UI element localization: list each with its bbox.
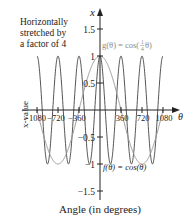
x-axis-symbol: θ — [178, 111, 183, 122]
y-tick-label: 1 — [90, 52, 95, 62]
annotation-line-3: a factor of 4 — [20, 39, 66, 49]
x-tick-label: 360 — [116, 113, 129, 123]
y-axis-symbol: x — [89, 6, 95, 18]
y-tick-label: −1.5 — [78, 187, 95, 197]
y-tick-label: −0.5 — [78, 133, 95, 143]
g-label-prefix: g(θ) = cos( — [102, 40, 139, 50]
g-label-suffix: θ) — [145, 40, 152, 50]
g-label-frac-num: 1 — [141, 39, 144, 45]
x-tick-label: −720 — [47, 113, 65, 123]
y-tick-label: −1 — [85, 160, 95, 170]
annotation-line-1: Horizontally — [20, 17, 68, 27]
f-label: f(θ) = cos(θ) — [103, 162, 147, 172]
y-tick-label: 1.5 — [83, 25, 95, 35]
g-label-frac-den: 4 — [141, 46, 144, 52]
annotation-line-2: stretched by — [20, 28, 66, 38]
chart: −1080−720−36036072010801.510.5−0.5−1−1.5… — [0, 0, 187, 221]
y-axis-arrow-icon — [97, 8, 103, 16]
g-label: g(θ) = cos( 1 4 θ) — [102, 39, 152, 52]
x-tick-label: 720 — [137, 113, 150, 123]
y-axis-label: x-value — [20, 101, 30, 128]
x-tick-label: −360 — [68, 113, 86, 123]
x-axis-label: Angle (in degrees) — [59, 203, 141, 216]
y-tick-label: 0.5 — [83, 79, 95, 89]
x-tick-label: 1080 — [156, 113, 173, 123]
